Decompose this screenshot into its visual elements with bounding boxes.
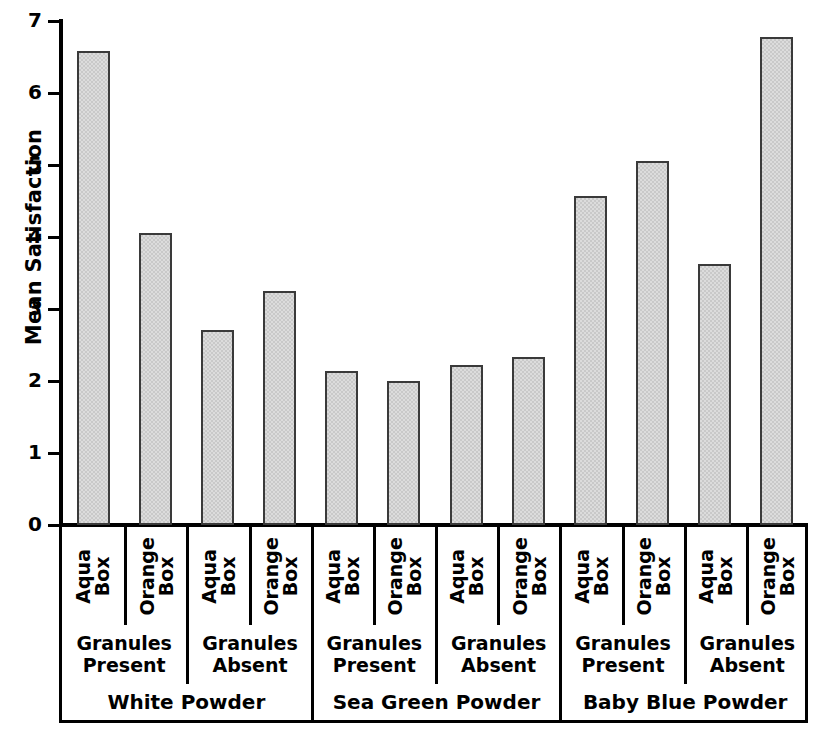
y-tick-label: 2 [2, 370, 42, 390]
bar [325, 371, 358, 525]
bar [698, 264, 731, 525]
box-label-line2: Box [405, 537, 424, 615]
powder-label: Sea Green Powder [333, 690, 541, 714]
box-label-line2: Box [157, 537, 176, 615]
box-label: OrangeBox [510, 537, 549, 615]
x-axis-label-table: AquaBoxOrangeBoxAquaBoxOrangeBoxAquaBoxO… [59, 527, 808, 723]
box-label-line2: Box [468, 549, 487, 604]
granules-label-line1: Granules [700, 633, 796, 654]
box-label-line2: Box [654, 537, 673, 615]
bar [201, 330, 234, 525]
box-label-cell: AquaBox [559, 527, 621, 625]
box-label: AquaBox [697, 549, 736, 604]
granules-label-line1: Granules [202, 633, 298, 654]
box-label-line2: Box [93, 549, 112, 604]
plot-area [62, 21, 808, 525]
box-label-cell: OrangeBox [622, 527, 684, 625]
y-tick-mark [48, 92, 62, 95]
y-tick-mark [48, 452, 62, 455]
powder-label-row: White PowderSea Green PowderBaby Blue Po… [62, 684, 805, 720]
y-tick-label: 5 [2, 154, 42, 174]
powder-label: White Powder [107, 690, 265, 714]
box-label-line1: Orange [635, 537, 654, 615]
bar [636, 161, 669, 525]
y-tick-label: 7 [2, 10, 42, 30]
bar [77, 51, 110, 525]
granules-label: GranulesPresent [575, 633, 671, 676]
y-tick-label: 3 [2, 298, 42, 318]
y-tick-label: 4 [2, 226, 42, 246]
granules-label: GranulesPresent [327, 633, 423, 676]
granules-label-cell: GranulesAbsent [186, 625, 310, 684]
box-label-line1: Aqua [324, 549, 343, 604]
powder-label: Baby Blue Powder [583, 690, 788, 714]
granules-label-line2: Absent [451, 655, 547, 676]
bar [387, 381, 420, 525]
granules-label-line2: Present [76, 655, 172, 676]
granules-label-line1: Granules [451, 633, 547, 654]
granules-label-line2: Present [327, 655, 423, 676]
bar [263, 291, 296, 525]
box-label-cell: AquaBox [62, 527, 124, 625]
box-label-cell: OrangeBox [124, 527, 186, 625]
box-label-cell: AquaBox [684, 527, 746, 625]
bar-chart-figure: Mean Satisfaction 76543210 AquaBoxOrange… [0, 0, 821, 741]
bar [139, 233, 172, 525]
box-label: AquaBox [200, 549, 239, 604]
bar [450, 365, 483, 525]
granules-label-line1: Granules [575, 633, 671, 654]
box-label-line1: Aqua [200, 549, 219, 604]
box-label: OrangeBox [386, 537, 425, 615]
box-label: AquaBox [448, 549, 487, 604]
granules-label-cell: GranulesPresent [559, 625, 683, 684]
box-label: OrangeBox [137, 537, 176, 615]
box-label-row: AquaBoxOrangeBoxAquaBoxOrangeBoxAquaBoxO… [62, 527, 805, 625]
box-label: AquaBox [74, 549, 113, 604]
box-label: OrangeBox [262, 537, 301, 615]
granules-label: GranulesAbsent [451, 633, 547, 676]
box-label-line1: Orange [510, 537, 529, 615]
box-label-cell: AquaBox [311, 527, 373, 625]
box-label-cell: OrangeBox [497, 527, 559, 625]
powder-label-cell: Sea Green Powder [311, 684, 560, 720]
box-label-line2: Box [716, 549, 735, 604]
box-label-cell: OrangeBox [746, 527, 808, 625]
granules-label-cell: GranulesAbsent [684, 625, 808, 684]
box-label-line2: Box [530, 537, 549, 615]
box-label-line2: Box [219, 549, 238, 604]
bar [574, 196, 607, 525]
granules-label-line2: Present [575, 655, 671, 676]
granules-label-line1: Granules [327, 633, 423, 654]
y-tick-label: 6 [2, 82, 42, 102]
y-tick-mark [48, 308, 62, 311]
box-label-line1: Aqua [74, 549, 93, 604]
granules-label-cell: GranulesPresent [62, 625, 186, 684]
granules-label-line2: Absent [700, 655, 796, 676]
box-label-line1: Aqua [573, 549, 592, 604]
box-label: OrangeBox [635, 537, 674, 615]
granules-label: GranulesPresent [76, 633, 172, 676]
box-label-line1: Orange [137, 537, 156, 615]
y-tick-label: 1 [2, 442, 42, 462]
box-label-line2: Box [343, 549, 362, 604]
granules-label-cell: GranulesAbsent [435, 625, 559, 684]
powder-label-cell: White Powder [62, 684, 311, 720]
y-tick-mark [48, 380, 62, 383]
box-label-line1: Orange [262, 537, 281, 615]
box-label: AquaBox [573, 549, 612, 604]
granules-label: GranulesAbsent [700, 633, 796, 676]
granules-label-cell: GranulesPresent [311, 625, 435, 684]
box-label: OrangeBox [759, 537, 798, 615]
bar [512, 357, 545, 525]
box-label-cell: OrangeBox [249, 527, 311, 625]
y-tick-label: 0 [2, 514, 42, 534]
granules-label-line2: Absent [202, 655, 298, 676]
powder-label-cell: Baby Blue Powder [559, 684, 808, 720]
box-label-cell: AquaBox [186, 527, 248, 625]
bar [760, 37, 793, 525]
box-label-line1: Aqua [697, 549, 716, 604]
granules-label: GranulesAbsent [202, 633, 298, 676]
box-label-line2: Box [592, 549, 611, 604]
box-label: AquaBox [324, 549, 363, 604]
granules-label-line1: Granules [76, 633, 172, 654]
